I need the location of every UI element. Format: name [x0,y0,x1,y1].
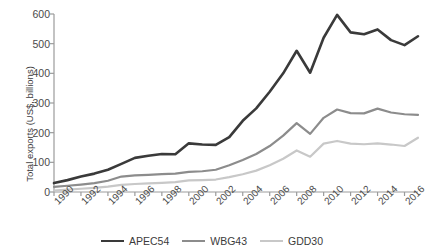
legend-label: GDD30 [288,236,323,247]
chart-legend: APEC54WBG43GDD30 [0,236,424,247]
series-line-gdd30 [54,138,418,191]
legend-item-apec54[interactable]: APEC54 [101,236,169,247]
legend-label: WBG43 [210,236,247,247]
legend-item-gdd30[interactable]: GDD30 [260,236,323,247]
legend-item-wbg43[interactable]: WBG43 [182,236,247,247]
series-line-apec54 [54,15,418,183]
legend-swatch-icon [182,240,205,242]
legend-swatch-icon [101,240,124,242]
legend-swatch-icon [260,240,283,242]
legend-label: APEC54 [129,236,169,247]
